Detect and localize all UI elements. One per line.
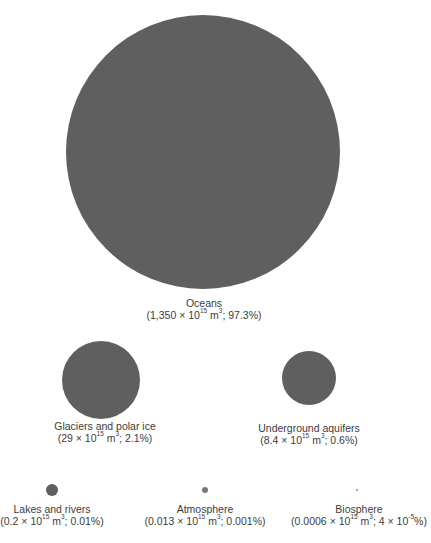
lakes-volume: (0.2 × 1015 m3; 0.01%) xyxy=(0,516,103,528)
oceans-circle xyxy=(66,15,340,289)
biosphere-label: Biosphere (0.0006 × 1015 m3; 4 × 10-5%) xyxy=(291,504,427,527)
aquifers-circle xyxy=(282,351,336,405)
glaciers-volume: (29 × 1015 m3; 2.1%) xyxy=(54,433,156,445)
glaciers-circle xyxy=(62,341,140,419)
oceans-volume: (1,350 × 1015 m3; 97.3%) xyxy=(146,310,261,322)
lakes-circle xyxy=(46,484,58,496)
aquifers-volume: (8.4 × 1015 m3; 0.6%) xyxy=(258,435,360,447)
glaciers-label: Glaciers and polar ice (29 × 1015 m3; 2.… xyxy=(54,421,156,444)
atmosphere-label: Atmosphere (0.013 × 1015 m3; 0.001%) xyxy=(145,504,266,527)
biosphere-volume: (0.0006 × 1015 m3; 4 × 10-5%) xyxy=(291,516,427,528)
aquifers-label: Underground aquifers (8.4 × 1015 m3; 0.6… xyxy=(258,423,360,446)
lakes-label: Lakes and rivers (0.2 × 1015 m3; 0.01%) xyxy=(0,504,103,527)
biosphere-circle xyxy=(356,489,358,491)
atmosphere-circle xyxy=(202,487,208,493)
atmosphere-volume: (0.013 × 1015 m3; 0.001%) xyxy=(145,516,266,528)
oceans-label: Oceans (1,350 × 1015 m3; 97.3%) xyxy=(146,298,261,321)
